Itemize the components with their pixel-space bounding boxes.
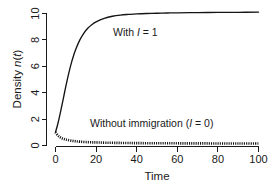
x-axis-tick-labels: 0 20 40 60 80 100 bbox=[52, 153, 267, 165]
annotation-without-immigration: Without immigration (I = 0) bbox=[90, 117, 213, 129]
y-tick-label-6: 6 bbox=[29, 63, 41, 69]
x-tick-label-60: 60 bbox=[171, 153, 183, 165]
x-axis: 0 20 40 60 80 100 Time bbox=[52, 147, 267, 183]
annotation-upper-prefix: With bbox=[113, 26, 137, 38]
y-axis-tick-labels: 0 2 4 6 8 10 bbox=[29, 7, 41, 148]
x-tick-label-40: 40 bbox=[131, 153, 143, 165]
annotation-lower-prefix: Without immigration ( bbox=[90, 117, 190, 129]
annotation-with-immigration: With I = 1 bbox=[113, 26, 158, 38]
y-tick-label-2: 2 bbox=[29, 116, 41, 122]
chart-plot-area: 0 20 40 60 80 100 Time 0 2 bbox=[0, 0, 272, 185]
y-axis-title-close-paren: ) bbox=[11, 49, 23, 53]
y-tick-label-0: 0 bbox=[29, 142, 41, 148]
chart-figure: 0 20 40 60 80 100 Time 0 2 bbox=[0, 0, 272, 185]
x-tick-label-80: 80 bbox=[212, 153, 224, 165]
x-axis-title: Time bbox=[144, 170, 169, 182]
y-tick-label-8: 8 bbox=[29, 37, 41, 43]
x-tick-label-100: 100 bbox=[249, 153, 267, 165]
x-axis-ticks bbox=[56, 147, 259, 152]
y-axis: 0 2 4 6 8 10 Density n(t) bbox=[11, 7, 46, 148]
series-without-immigration bbox=[56, 132, 259, 143]
annotation-lower-suffix: = 0) bbox=[192, 117, 213, 129]
y-tick-label-10: 10 bbox=[29, 7, 41, 19]
x-tick-label-20: 20 bbox=[90, 153, 102, 165]
annotation-upper-suffix: = 1 bbox=[140, 26, 158, 38]
y-tick-label-4: 4 bbox=[29, 90, 41, 96]
y-axis-title-prefix: Density bbox=[11, 67, 23, 109]
y-axis-title: Density n(t) bbox=[11, 49, 23, 108]
x-tick-label-0: 0 bbox=[52, 153, 58, 165]
y-axis-ticks bbox=[42, 14, 47, 146]
